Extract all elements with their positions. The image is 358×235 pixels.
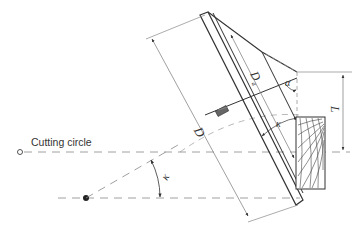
alpha-label: α <box>285 77 291 88</box>
kappa-angle-bottom: κ <box>151 160 172 197</box>
kappa-label-top: κ <box>276 118 281 129</box>
L-label: L <box>328 105 342 113</box>
saw-blade-diagram: κ D D a α <box>0 0 358 235</box>
hub-icon <box>215 106 228 117</box>
kappa-label-bottom: κ <box>158 171 171 182</box>
axis-line <box>58 145 300 201</box>
D-label: D <box>190 124 208 141</box>
saw-blade <box>200 12 303 205</box>
workpiece <box>296 117 325 189</box>
cutting-circle-label: Cutting circle <box>31 136 92 148</box>
